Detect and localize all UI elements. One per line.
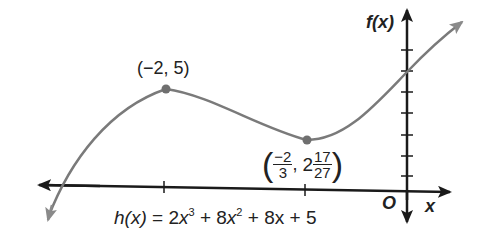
- x-fraction: −23: [273, 149, 292, 180]
- y-fraction: 1727: [313, 149, 332, 180]
- x-axis-label: x: [425, 196, 435, 217]
- relative-min-point: [303, 136, 312, 145]
- close-paren: ): [332, 145, 343, 183]
- function-equation: h(x) = 2x3 + 8x2 + 8x + 5: [114, 206, 316, 229]
- x-axis-left-arrow: [39, 185, 100, 186]
- relative-max-label: (−2, 5): [137, 58, 190, 79]
- relative-min-label: (−23, 21727): [262, 145, 343, 184]
- x-axis: [42, 185, 450, 192]
- origin-label: O: [382, 193, 396, 214]
- relative-max-point: [162, 85, 171, 94]
- y-axis-label: f(x): [366, 12, 394, 33]
- open-paren: (: [262, 145, 273, 183]
